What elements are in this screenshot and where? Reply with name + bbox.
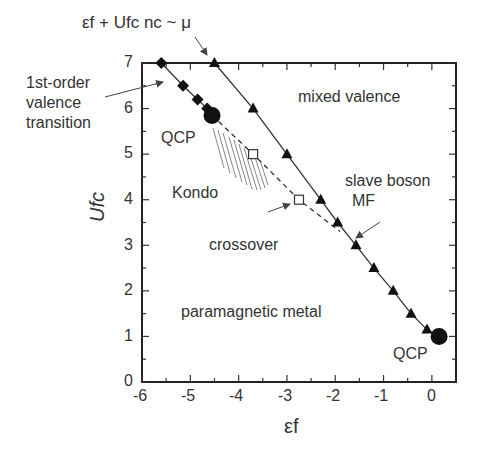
first-order-label-2: valence	[26, 94, 81, 112]
slave-boson-label-1: slave boson	[345, 172, 430, 190]
first-order-label-1: 1st-order	[26, 74, 90, 92]
x-tick-label: -2	[326, 387, 340, 405]
x-axis-label: εf	[284, 415, 298, 437]
kondo-label: Kondo	[172, 184, 218, 202]
x-tick-label: -3	[278, 387, 292, 405]
x-tick-label: 0	[427, 387, 436, 405]
plot-frame	[142, 63, 456, 382]
formula-label: εf + Ufc nc ~ μ	[82, 14, 191, 33]
y-tick-label: 1	[124, 327, 133, 345]
kondo-hatch	[213, 128, 268, 190]
x-tick-label: -5	[181, 387, 195, 405]
mixed-valence-label: mixed valence	[298, 88, 400, 106]
y-tick-label: 4	[124, 190, 133, 208]
slave-boson-arrow	[356, 222, 380, 238]
y-tick-label: 7	[124, 53, 133, 71]
slave-boson-label-2: MF	[352, 192, 375, 210]
crossover-label: crossover	[209, 236, 278, 254]
y-tick-label: 6	[124, 99, 133, 117]
y-tick-label: 0	[124, 372, 133, 390]
axis-ticks	[142, 63, 456, 382]
first-order-arrow	[105, 82, 163, 97]
paramagnetic-label: paramagnetic metal	[181, 303, 322, 321]
x-tick-label: -6	[133, 387, 147, 405]
formula-arrow	[195, 37, 207, 55]
first-order-label-3: transition	[26, 114, 91, 132]
y-tick-label: 3	[124, 236, 133, 254]
y-tick-label: 5	[124, 144, 133, 162]
y-tick-label: 2	[124, 281, 133, 299]
qcp-upper-label: QCP	[161, 129, 196, 147]
y-axis-label: Ufc	[86, 192, 108, 222]
x-tick-label: -1	[374, 387, 388, 405]
crossover-arrow	[268, 204, 290, 212]
qcp-lower-label: QCP	[393, 345, 428, 363]
x-tick-label: -4	[229, 387, 243, 405]
